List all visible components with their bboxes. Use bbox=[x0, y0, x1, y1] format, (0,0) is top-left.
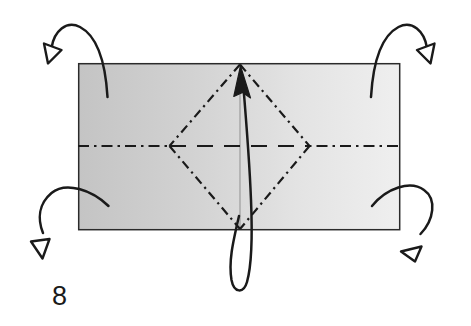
origami-step-figure: 8 bbox=[0, 0, 471, 326]
top-right-fold-arrowhead-icon bbox=[417, 44, 435, 64]
diagram-canvas bbox=[0, 0, 471, 326]
top-left-fold-arrowhead-icon bbox=[44, 44, 62, 64]
bottom-right-fold-arrowhead-icon bbox=[401, 247, 422, 262]
bottom-left-fold-arrowhead-icon bbox=[31, 239, 50, 259]
step-number-label: 8 bbox=[52, 283, 67, 310]
